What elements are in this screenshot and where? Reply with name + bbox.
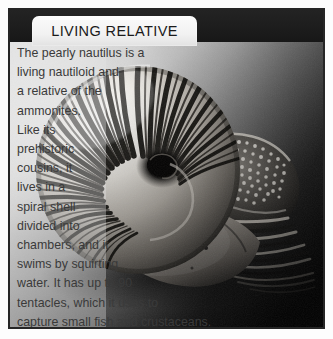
nautilus-photo-svg (10, 42, 323, 327)
page-title: LIVING RELATIVE (51, 23, 178, 39)
fact-box: The pearly nautilus is a living nautiloi… (8, 8, 325, 329)
page-root: The pearly nautilus is a living nautiloi… (0, 0, 333, 339)
nautilus-photo (10, 42, 323, 327)
title-tab: LIVING RELATIVE (32, 16, 197, 46)
